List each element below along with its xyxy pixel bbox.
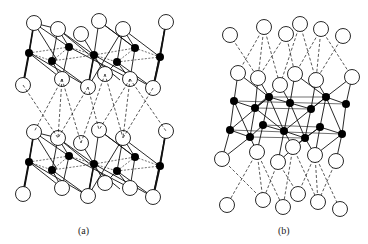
filled-dot-atom: [156, 162, 164, 170]
open-circle-atom: [123, 181, 138, 196]
open-circle-atom: [271, 155, 286, 170]
filled-dot-atom: [280, 127, 288, 135]
filled-dot-atom: [113, 167, 121, 175]
bond: [230, 101, 234, 130]
crystal-structure-diagram: [0, 0, 368, 244]
open-circle-atom: [220, 198, 235, 213]
filled-dot-atom: [307, 105, 315, 113]
filled-dot-atom: [131, 153, 139, 161]
filled-dot-atom: [25, 49, 33, 57]
open-circle-atom: [74, 27, 89, 42]
bond: [255, 108, 311, 109]
dashed-bond: [34, 79, 62, 132]
dashed-bond: [227, 152, 257, 205]
panel-b-structure: [215, 17, 360, 217]
filled-dot-atom: [246, 133, 254, 141]
open-circle-atom: [288, 67, 303, 82]
open-circle-atom: [146, 190, 161, 205]
open-circle-atom: [276, 200, 291, 215]
open-circle-atom: [251, 71, 266, 86]
bond: [326, 97, 342, 134]
filled-dot-atom: [90, 160, 98, 168]
filled-dot-atom: [48, 57, 56, 65]
open-circle-atom: [27, 16, 42, 31]
filled-dot-atom: [90, 51, 98, 59]
open-circle-atom: [273, 78, 288, 93]
filled-dot-atom: [48, 166, 56, 174]
panel-a-label: (a): [78, 225, 89, 236]
open-circle-atom: [215, 152, 230, 167]
dashed-bond: [105, 74, 123, 138]
filled-dot-atom: [265, 93, 273, 101]
dashed-bond: [94, 48, 135, 55]
open-circle-atom: [256, 193, 271, 208]
open-circle-atom: [92, 14, 107, 29]
open-circle-atom: [345, 70, 360, 85]
dashed-bond: [123, 88, 153, 138]
open-circle-atom: [308, 148, 323, 163]
open-circle-atom: [329, 154, 344, 169]
filled-dot-atom: [65, 43, 73, 51]
dashed-bond: [94, 157, 135, 164]
panel-a-structure: [16, 14, 174, 205]
bond: [342, 104, 346, 134]
filled-dot-atom: [156, 53, 164, 61]
filled-dot-atom: [342, 100, 350, 108]
filled-dot-atom: [230, 97, 238, 105]
dashed-bond: [62, 79, 81, 143]
open-circle-atom: [336, 29, 351, 44]
dashed-bond: [88, 87, 99, 130]
open-circle-atom: [309, 73, 324, 88]
filled-dot-atom: [316, 123, 324, 131]
open-circle-atom: [311, 195, 326, 210]
open-circle-atom: [279, 27, 294, 42]
filled-dot-atom: [113, 58, 121, 66]
bond: [250, 137, 305, 138]
filled-dot-atom: [226, 126, 234, 134]
filled-dot-atom: [322, 93, 330, 101]
open-circle-atom: [314, 22, 329, 37]
open-circle-atom: [223, 28, 238, 43]
dashed-bond: [99, 79, 130, 130]
panel-b-label: (b): [278, 225, 290, 236]
filled-dot-atom: [65, 152, 73, 160]
open-circle-atom: [231, 66, 246, 81]
filled-dot-atom: [338, 130, 346, 138]
filled-dot-atom: [259, 121, 267, 129]
open-circle-atom: [291, 187, 306, 202]
open-circle-atom: [257, 20, 272, 35]
open-circle-atom: [159, 15, 174, 30]
dashed-bond: [58, 87, 88, 138]
dashed-bond: [117, 166, 160, 171]
dashed-bond: [117, 57, 160, 62]
open-circle-atom: [98, 176, 113, 191]
dashed-bond: [58, 79, 62, 138]
bond: [234, 101, 250, 137]
open-circle-atom: [116, 22, 131, 37]
open-circle-atom: [16, 187, 31, 202]
filled-dot-atom: [131, 44, 139, 52]
filled-dot-atom: [25, 158, 33, 166]
dashed-bond: [123, 79, 130, 138]
open-circle-atom: [293, 17, 308, 32]
open-circle-atom: [81, 189, 96, 204]
filled-dot-atom: [286, 99, 294, 107]
dashed-bond: [222, 159, 263, 200]
open-circle-atom: [333, 202, 348, 217]
open-circle-atom: [250, 145, 265, 160]
filled-dot-atom: [251, 104, 259, 112]
open-circle-atom: [55, 181, 70, 196]
open-circle-atom: [51, 22, 66, 37]
open-circle-atom: [286, 140, 301, 155]
filled-dot-atom: [301, 134, 309, 142]
bond: [255, 108, 284, 131]
